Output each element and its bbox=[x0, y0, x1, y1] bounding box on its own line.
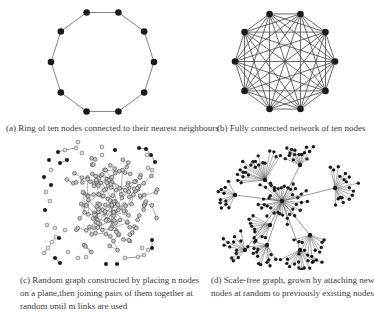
graph-node bbox=[244, 171, 247, 174]
graph-node bbox=[310, 255, 313, 258]
graph-node bbox=[263, 161, 266, 164]
graph-node bbox=[150, 174, 154, 178]
graph-node bbox=[292, 158, 295, 161]
graph-node bbox=[247, 217, 250, 220]
graph-node bbox=[43, 208, 47, 212]
graph-node bbox=[266, 11, 273, 18]
graph-node bbox=[109, 227, 113, 231]
graph-node bbox=[320, 246, 323, 249]
graph-node bbox=[137, 146, 141, 150]
graph-node bbox=[142, 181, 146, 185]
graph-node bbox=[141, 89, 148, 96]
graph-node bbox=[243, 248, 247, 252]
graph-node bbox=[84, 204, 88, 208]
graph-node bbox=[150, 203, 154, 207]
graph-node bbox=[96, 221, 100, 225]
graph-node bbox=[256, 248, 259, 251]
graph-node bbox=[222, 243, 225, 246]
graph-node bbox=[251, 214, 254, 217]
graph-node bbox=[91, 217, 95, 221]
graph-node bbox=[273, 186, 276, 189]
graph-node bbox=[295, 203, 298, 206]
graph-node bbox=[84, 245, 88, 249]
graph-node bbox=[65, 158, 69, 162]
caption-c-line-3: random until m links are used bbox=[20, 300, 127, 313]
graph-node bbox=[293, 149, 296, 152]
graph-node bbox=[94, 178, 98, 182]
graph-node bbox=[125, 220, 129, 224]
graph-node bbox=[298, 163, 302, 167]
graph-node bbox=[257, 203, 260, 206]
graph-node bbox=[219, 198, 222, 201]
graph-node bbox=[141, 28, 148, 35]
graph-node bbox=[58, 261, 62, 265]
graph-node bbox=[306, 200, 309, 203]
graph-node bbox=[291, 193, 294, 196]
graph-node bbox=[264, 236, 267, 239]
graph-node bbox=[222, 237, 225, 240]
graph-node bbox=[337, 165, 340, 168]
graph-node bbox=[98, 203, 102, 207]
graph-node bbox=[81, 190, 85, 194]
graph-node bbox=[146, 248, 150, 252]
graph-node bbox=[116, 208, 120, 212]
graph-node bbox=[154, 190, 158, 194]
graph-node bbox=[280, 199, 284, 203]
graph-node bbox=[56, 150, 60, 154]
graph-node bbox=[266, 204, 269, 207]
graph-node bbox=[96, 226, 100, 230]
graph-node bbox=[109, 182, 113, 186]
graph-node bbox=[322, 88, 329, 95]
caption-c-line-1: (c) Random graph constructed by placing … bbox=[20, 274, 199, 287]
graph-node bbox=[246, 245, 249, 248]
graph-node bbox=[253, 228, 256, 231]
graph-node bbox=[97, 193, 101, 197]
graph-node bbox=[306, 253, 309, 256]
graph-node bbox=[286, 223, 289, 226]
graph-node bbox=[293, 214, 296, 217]
graph-node bbox=[291, 207, 294, 210]
graph-node bbox=[308, 150, 311, 153]
graph-node bbox=[342, 201, 345, 204]
panel-complete-graph: (b) Fully connected network of ten nodes bbox=[200, 0, 361, 140]
graph-node bbox=[318, 250, 321, 253]
graph-node bbox=[293, 262, 296, 265]
graph-node bbox=[312, 260, 315, 263]
graph-node bbox=[123, 188, 127, 192]
graph-node bbox=[44, 190, 48, 194]
graph-node bbox=[87, 198, 91, 202]
caption-d-line-2: nodes at random to previously existing n… bbox=[211, 287, 374, 300]
graph-node bbox=[112, 219, 116, 223]
graph-node bbox=[262, 197, 265, 200]
graph-node bbox=[249, 222, 252, 225]
graph-node bbox=[63, 228, 67, 232]
graph-node bbox=[94, 174, 98, 178]
graph-node bbox=[108, 244, 112, 248]
graph-node bbox=[297, 252, 300, 255]
complete-graph-diagram bbox=[200, 0, 361, 125]
graph-node bbox=[53, 226, 57, 230]
graph-node bbox=[132, 193, 136, 197]
graph-node bbox=[312, 145, 315, 148]
graph-node bbox=[241, 160, 244, 163]
graph-node bbox=[315, 258, 318, 261]
graph-node bbox=[83, 9, 90, 16]
graph-node bbox=[83, 210, 87, 214]
graph-node bbox=[89, 180, 93, 184]
graph-node bbox=[300, 241, 303, 244]
graph-node bbox=[110, 203, 114, 207]
graph-node bbox=[265, 214, 268, 217]
graph-node bbox=[128, 172, 132, 176]
graph-node bbox=[239, 181, 242, 184]
graph-node bbox=[110, 175, 114, 179]
graph-node bbox=[93, 213, 97, 217]
graph-node bbox=[100, 153, 104, 157]
graph-node bbox=[80, 176, 84, 180]
graph-node bbox=[289, 188, 292, 191]
graph-node bbox=[144, 200, 148, 204]
graph-node bbox=[226, 241, 229, 244]
graph-node bbox=[126, 184, 130, 188]
graph-node bbox=[269, 253, 272, 256]
graph-node bbox=[104, 219, 108, 223]
graph-node bbox=[89, 250, 93, 254]
